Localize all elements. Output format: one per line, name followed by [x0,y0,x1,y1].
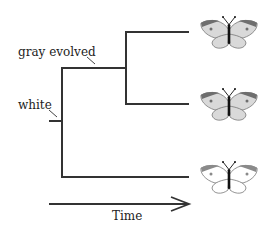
label-white: white [18,98,52,112]
butterfly-gray-2-icon [201,88,257,120]
label-time: Time [112,209,142,223]
phylogeny-diagram: gray evolved white Time [0,0,268,229]
butterfly-white-icon [201,161,257,193]
butterfly-gray-1-icon [201,16,257,48]
label-gray-evolved: gray evolved [18,45,96,59]
